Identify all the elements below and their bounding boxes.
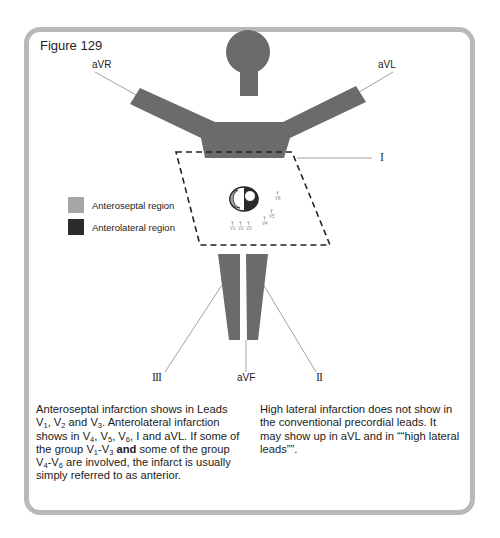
v6-label: V6 bbox=[275, 196, 281, 201]
avl-lead-line bbox=[356, 72, 393, 94]
neck-shape bbox=[240, 68, 258, 96]
torso-shape bbox=[130, 86, 366, 158]
right-leg-shape bbox=[246, 254, 268, 340]
v4-label: V4 bbox=[262, 221, 268, 226]
heart-icon bbox=[230, 187, 258, 211]
avl-label: aVL bbox=[378, 59, 396, 70]
v2-label: V2 bbox=[238, 226, 244, 231]
legend-label: Anterolateral region bbox=[92, 222, 175, 233]
left-leg-shape bbox=[218, 254, 240, 340]
lead-i-label: I bbox=[380, 150, 383, 165]
v5-label: V5 bbox=[269, 214, 275, 219]
right-caption: High lateral infarction does not show in… bbox=[260, 403, 460, 456]
avr-lead-line bbox=[95, 72, 138, 96]
left-caption: Anteroseptal infarction shows in Leads V… bbox=[36, 403, 241, 483]
avf-label: aVF bbox=[237, 372, 255, 383]
lead-ii-label: II bbox=[316, 370, 322, 385]
v3-label: V3 bbox=[246, 226, 252, 231]
head-shape bbox=[226, 30, 270, 74]
anterolateral-swatch bbox=[68, 219, 84, 235]
avr-label: aVR bbox=[92, 59, 111, 70]
lead-iii-label: III bbox=[152, 370, 161, 385]
legend-item-anterolateral: Anterolateral region bbox=[68, 219, 175, 235]
legend-label: Anteroseptal region bbox=[92, 200, 174, 211]
v1-label: V1 bbox=[230, 226, 236, 231]
legend: Anteroseptal region Anterolateral region bbox=[68, 197, 175, 241]
lead-ii-line bbox=[263, 284, 316, 372]
anteroseptal-swatch bbox=[68, 197, 84, 213]
lead-iii-line bbox=[165, 285, 222, 372]
legend-item-anteroseptal: Anteroseptal region bbox=[68, 197, 175, 213]
